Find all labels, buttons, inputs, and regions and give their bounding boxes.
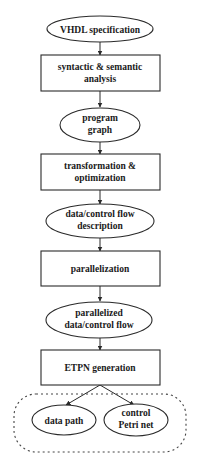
node-label-line2: graph	[88, 125, 113, 135]
node-data-path: data path	[32, 405, 96, 435]
node-label: VHDL specification	[60, 25, 141, 35]
node-vhdl-specification: VHDL specification	[47, 16, 153, 42]
node-label: data path	[45, 416, 85, 426]
node-label-line2: data/control flow	[64, 320, 133, 330]
node-syntactic-semantic-analysis: syntactic & semantic analysis	[41, 55, 160, 91]
node-label-line1: data/control flow	[65, 209, 134, 219]
node-control-petri-net: control Petri net	[104, 404, 168, 436]
node-parallelization: parallelization	[41, 251, 160, 286]
node-label-line2: description	[77, 221, 123, 231]
node-etpn-generation: ETPN generation	[41, 350, 160, 385]
node-label: parallelization	[71, 264, 130, 274]
node-label-line1: syntactic & semantic	[58, 62, 142, 72]
node-label-line2: analysis	[84, 74, 117, 84]
node-label: ETPN generation	[65, 363, 137, 373]
node-label-line2: optimization	[74, 173, 126, 183]
node-label-line2: Petri net	[118, 420, 154, 430]
node-data-control-flow-description: data/control flow description	[46, 204, 154, 238]
flowchart-diagram: VHDL specification syntactic & semantic …	[0, 0, 197, 461]
node-label-line1: parallelized	[75, 308, 123, 318]
node-parallelized-data-control-flow: parallelized data/control flow	[46, 302, 152, 338]
node-label-line1: transformation &	[64, 161, 136, 171]
node-transformation-optimization: transformation & optimization	[41, 154, 160, 190]
node-label-line1: control	[122, 408, 151, 418]
node-label-line1: program	[82, 113, 118, 123]
edge-etpn-petri	[100, 385, 134, 405]
edge-etpn-datapath	[66, 385, 100, 405]
node-program-graph: program graph	[60, 108, 140, 142]
